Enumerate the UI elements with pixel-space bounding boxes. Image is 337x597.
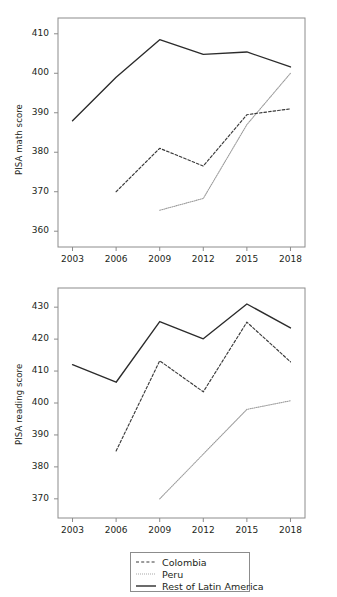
y-tick-label: 420 xyxy=(23,333,49,343)
y-tick-label: 370 xyxy=(23,186,49,196)
x-tick-label: 2018 xyxy=(273,525,307,535)
legend-label-rest-of-latin-america: Rest of Latin America xyxy=(162,581,264,592)
series-line-peru xyxy=(160,401,291,499)
x-tick-label: 2018 xyxy=(273,254,307,264)
series-line-colombia xyxy=(116,109,290,192)
y-tick-label: 410 xyxy=(23,28,49,38)
x-tick-label: 2003 xyxy=(56,254,90,264)
y-tick-label: 430 xyxy=(23,301,49,311)
x-tick-label: 2015 xyxy=(230,254,264,264)
y-tick-label: 360 xyxy=(23,225,49,235)
y-tick-label: 390 xyxy=(23,429,49,439)
x-tick-label: 2015 xyxy=(230,525,264,535)
y-tick-label: 380 xyxy=(23,146,49,156)
y-tick-label: 370 xyxy=(23,493,49,503)
chart-panel-math: PISA math score 360370380390400410200320… xyxy=(0,0,337,278)
legend-label-peru: Peru xyxy=(162,569,183,580)
legend-label-colombia: Colombia xyxy=(162,557,207,568)
legend-entry-rest-of-latin-america: Rest of Latin America xyxy=(131,580,249,592)
reading-chart-plot xyxy=(0,268,337,548)
dashed-line-key xyxy=(135,557,157,567)
series-line-peru xyxy=(160,73,291,210)
legend: Colombia Peru Rest of Latin America xyxy=(130,552,250,592)
y-tick-label: 380 xyxy=(23,461,49,471)
solid-line-key xyxy=(135,581,157,591)
x-tick-label: 2009 xyxy=(143,525,177,535)
series-line-colombia xyxy=(116,322,290,451)
series-line-rest-of-latin-america xyxy=(73,304,291,382)
legend-entry-peru: Peru xyxy=(131,568,249,580)
y-tick-label: 400 xyxy=(23,397,49,407)
legend-entry-colombia: Colombia xyxy=(131,556,249,568)
chart-panel-reading: PISA reading score 370380390400410420430… xyxy=(0,268,337,548)
x-tick-label: 2012 xyxy=(186,525,220,535)
y-tick-label: 390 xyxy=(23,107,49,117)
dotted-line-key xyxy=(135,569,157,579)
math-chart-plot xyxy=(0,0,337,278)
x-tick-label: 2012 xyxy=(186,254,220,264)
x-tick-label: 2003 xyxy=(56,525,90,535)
y-tick-label: 400 xyxy=(23,67,49,77)
pisa-scores-figure: PISA math score 360370380390400410200320… xyxy=(0,0,337,597)
x-tick-label: 2006 xyxy=(99,525,133,535)
x-tick-label: 2006 xyxy=(99,254,133,264)
legend-area: Colombia Peru Rest of Latin America xyxy=(0,548,337,597)
series-line-rest-of-latin-america xyxy=(73,40,291,121)
x-tick-label: 2009 xyxy=(143,254,177,264)
y-tick-label: 410 xyxy=(23,365,49,375)
